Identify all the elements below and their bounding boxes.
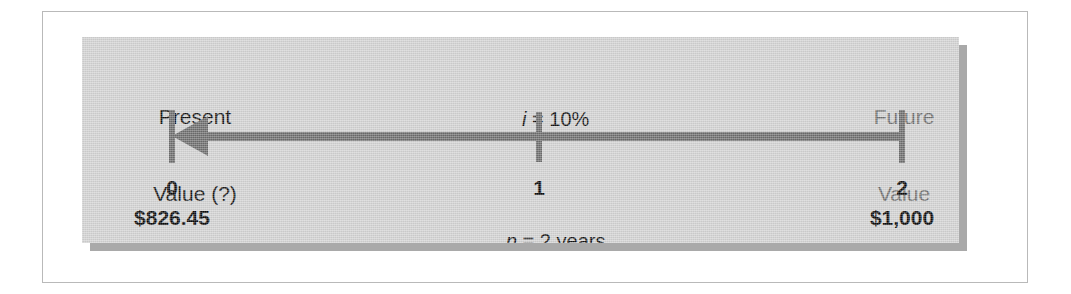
figure-canvas: Present Value (?) Future Value i = 10% 0… — [0, 0, 1071, 294]
periods-symbol: n — [506, 230, 517, 243]
periods-label: n = 2 years — [473, 205, 606, 243]
timeline-panel: Present Value (?) Future Value i = 10% 0… — [82, 37, 959, 243]
timeline-tick-0 — [169, 110, 175, 163]
periods-value: = 2 years — [517, 230, 605, 243]
period-number-0: 0 — [166, 175, 178, 201]
timeline-axis-line — [208, 132, 902, 141]
present-value-amount: $826.45 — [134, 205, 210, 231]
period-number-1: 1 — [533, 175, 545, 201]
future-value-amount: $1,000 — [870, 205, 934, 231]
discount-arrow-head-icon — [172, 116, 208, 156]
timeline-tick-1 — [536, 112, 542, 162]
period-number-2: 2 — [896, 175, 908, 201]
timeline-tick-2 — [899, 110, 905, 163]
